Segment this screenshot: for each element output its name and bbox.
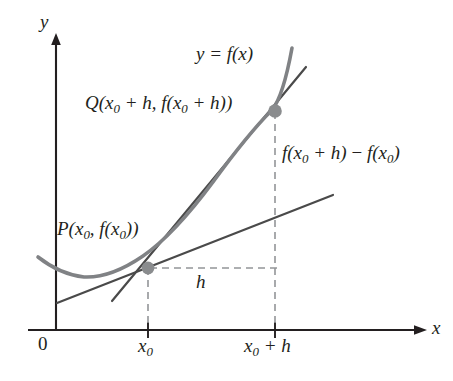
rise-b-main: f(x (367, 142, 387, 163)
point-p-x-tail: , (90, 218, 100, 239)
y-axis (51, 33, 61, 330)
run-label: h (196, 272, 206, 291)
rise-a-main: f(x (282, 142, 302, 163)
rise-minus: − (347, 142, 367, 163)
point-q-f-open: f(x (161, 92, 181, 113)
calculus-diagram: y x 0 y = f(x) Q(x0 + h, f(x0 + h)) P(x0… (0, 0, 453, 381)
point-q-marker (268, 104, 282, 118)
point-q-name: Q (85, 92, 99, 113)
tangent-line (57, 195, 333, 303)
rise-b-tail: ) (393, 142, 399, 163)
point-q-x-tail: + h, (120, 92, 161, 113)
curve-equation-label: y = f(x) (196, 44, 253, 63)
x-axis-label: x (432, 318, 440, 337)
point-p-f-open: f(x (99, 218, 119, 239)
origin-label: 0 (38, 334, 48, 353)
point-p-marker (142, 262, 155, 275)
x-tick-label-x0: x0 (138, 336, 153, 359)
x-tick-x0-sub: 0 (146, 344, 152, 359)
y-axis-label: y (40, 12, 48, 31)
point-p-f-tail: )) (126, 218, 139, 239)
curve-equation-text: y = f(x) (196, 43, 253, 64)
point-p-label: P(x0, f(x0)) (57, 219, 138, 242)
point-q-x-main: x (105, 92, 113, 113)
point-p-name: P (57, 218, 69, 239)
point-q-f-tail: + h)) (188, 92, 232, 113)
x-tick-label-x0-plus-h: x0 + h (244, 336, 291, 359)
x-axis (28, 325, 427, 335)
function-curve (38, 48, 292, 277)
rise-label: f(x0 + h) − f(x0) (282, 143, 400, 166)
rise-a-tail: + h) (309, 142, 347, 163)
point-q-label: Q(x0 + h, f(x0 + h)) (85, 93, 232, 116)
x-tick-x0h-tail: + h (259, 335, 291, 356)
